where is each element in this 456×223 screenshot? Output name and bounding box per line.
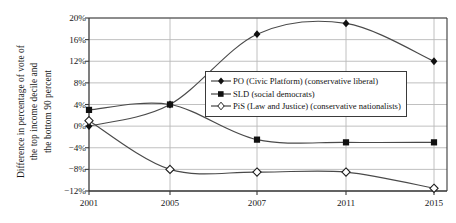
legend-item-sld[interactable]: SLD (social democrats): [210, 88, 401, 101]
x-tick-label: 2005: [161, 198, 179, 208]
x-tick-label: 2001: [80, 198, 98, 208]
legend-item-po[interactable]: PO (Civic Platform) (conservative libera…: [210, 75, 401, 88]
chart-figure: Difference in percentage of vote of the …: [0, 0, 456, 223]
legend-item-pis[interactable]: PiS (Law and Justice) (conservative nati…: [210, 100, 401, 113]
legend-label-sld: SLD (social democrats): [232, 89, 315, 99]
legend-label-po: PO (Civic Platform) (conservative libera…: [232, 76, 378, 86]
x-tick-label: 2007: [248, 198, 266, 208]
filled-square-icon: [210, 88, 232, 100]
x-tick-label: 2015: [425, 198, 443, 208]
legend-label-pis: PiS (Law and Justice) (conservative nati…: [232, 101, 401, 111]
open-diamond-icon: [210, 100, 232, 112]
chart-legend: PO (Civic Platform) (conservative libera…: [205, 71, 407, 117]
x-tick-label: 2011: [337, 198, 355, 208]
filled-diamond-icon: [210, 75, 232, 87]
